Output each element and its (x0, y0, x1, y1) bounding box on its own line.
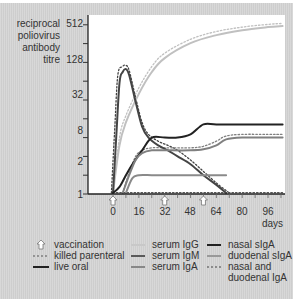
vaccination-arrow-icon (199, 196, 207, 205)
duodenal-siga-swatch-icon (206, 250, 224, 261)
legend-label: nasal sIgA (228, 239, 275, 250)
legend-label: vaccination (54, 239, 104, 250)
legend-item-live-oral: live oral (32, 261, 88, 272)
legend-item-nasal-duodenal-iga: nasal and duodenal IgA (206, 261, 287, 283)
vaccination-arrow-icon (109, 196, 117, 205)
y-axis-label-line: antibody (0, 42, 60, 53)
serum-igg-swatch-icon (130, 239, 148, 250)
legend-item-killed-parenteral: killed parenteral (32, 250, 125, 261)
x-tick-label: 64 (204, 206, 228, 217)
legend-label: serum IgM (152, 250, 199, 261)
legend-item-vaccination: vaccination (32, 239, 104, 250)
legend-label: live oral (54, 261, 88, 272)
vaccination-arrow-icon (32, 239, 50, 250)
y-axis-label-line: reciprocal (0, 18, 60, 29)
x-axis-unit: days (262, 218, 283, 229)
y-axis-label-line: titre (0, 54, 60, 65)
x-tick-label: 48 (178, 206, 202, 217)
legend-item-serum-igm: serum IgM (130, 250, 199, 261)
x-tick-label: 0 (101, 206, 125, 217)
legend-label: killed parenteral (54, 250, 125, 261)
dotted-line-swatch-icon (206, 261, 224, 272)
serum-iga-swatch-icon (130, 261, 148, 272)
y-tick-label: 1 (61, 189, 83, 200)
series-line (113, 23, 283, 193)
y-axis-label-line: poliovirus (0, 30, 60, 41)
x-tick-label: 16 (127, 206, 151, 217)
legend-item-serum-iga: serum IgA (130, 261, 198, 272)
legend-label-line: duodenal IgA (228, 272, 287, 283)
legend-item-serum-igg: serum IgG (130, 239, 199, 250)
x-tick-label: 96 (256, 206, 280, 217)
solid-line-swatch-icon (32, 261, 50, 272)
serum-igm-swatch-icon (130, 250, 148, 261)
series-line (126, 175, 226, 193)
legend-label: nasal and duodenal IgA (228, 261, 287, 283)
x-tick-label: 80 (230, 206, 254, 217)
legend-label: serum IgA (152, 261, 198, 272)
legend-label: serum IgG (152, 239, 199, 250)
nasal-siga-swatch-icon (206, 239, 224, 250)
legend-item-duodenal-siga: duodenal sIgA (206, 250, 292, 261)
x-tick-label: 32 (153, 206, 177, 217)
vaccination-arrow-icon (161, 196, 169, 205)
legend-label: duodenal sIgA (228, 250, 292, 261)
y-tick-label: 32 (61, 89, 83, 100)
series-layer (111, 23, 282, 193)
legend-label-line: nasal and (228, 261, 271, 272)
dotted-line-swatch-icon (32, 250, 50, 261)
y-tick-label: 2 (61, 156, 83, 167)
series-line (123, 137, 283, 193)
y-tick-label: 8 (61, 125, 83, 136)
y-tick-label: 512 (61, 18, 83, 29)
y-tick-label: 128 (61, 54, 83, 65)
legend-item-nasal-siga: nasal sIgA (206, 239, 275, 250)
